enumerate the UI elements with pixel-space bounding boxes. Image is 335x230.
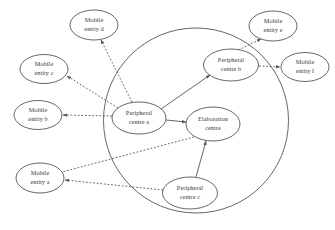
node-label-line1: Peripheral: [177, 184, 203, 191]
node-layer: Peripheral centre a Peripheral centre b …: [14, 10, 329, 209]
node-label-line1: Mobile: [29, 106, 48, 113]
diagram-canvas: Peripheral centre a Peripheral centre b …: [0, 0, 335, 230]
node-mobile-entity-f[interactable]: Mobile entity f: [281, 53, 329, 82]
edge-centre-c-entity-a: [65, 180, 163, 190]
node-mobile-entity-a[interactable]: Mobile entity a: [16, 163, 64, 193]
node-label-line1: Mobile: [31, 169, 50, 176]
node-label-line1: Elaboration: [198, 115, 229, 122]
network-architecture-diagram: Peripheral centre a Peripheral centre b …: [0, 0, 335, 230]
edge-centre-c-elaboration: [196, 141, 206, 177]
edge-elaboration-entity-a: [62, 137, 194, 172]
edge-centre-a-entity-c: [67, 76, 118, 108]
edge-centre-a-elaboration: [166, 120, 186, 122]
node-peripheral-centre-a[interactable]: Peripheral centre a: [112, 102, 166, 134]
node-mobile-entity-c[interactable]: Mobile entity c: [20, 55, 68, 84]
node-mobile-entity-b[interactable]: Mobile entity b: [14, 101, 62, 130]
node-label-line2: centre c: [180, 193, 200, 200]
node-mobile-entity-d[interactable]: Mobile entity d: [70, 10, 118, 40]
node-label-line1: Mobile: [296, 58, 315, 65]
node-label-line1: Peripheral: [218, 56, 244, 63]
node-label-line2: centre b: [221, 65, 241, 72]
node-label-line1: Mobile: [85, 16, 104, 23]
node-label-line1: Peripheral: [126, 109, 152, 116]
edge-centre-a-centre-b: [161, 75, 210, 109]
node-peripheral-centre-c[interactable]: Peripheral centre c: [163, 177, 218, 209]
node-mobile-entity-e[interactable]: Mobile entity e: [249, 11, 297, 41]
edge-centre-b-entity-f: [259, 66, 280, 67]
node-label-line2: entity d: [84, 25, 104, 32]
edge-centre-a-entity-b: [63, 115, 112, 116]
node-label-line2: entity f: [296, 67, 315, 74]
node-label-line2: centre a: [129, 118, 149, 125]
node-label-line1: Mobile: [35, 60, 54, 67]
node-label-line2: entity e: [264, 26, 283, 33]
node-label-line2: entity a: [31, 178, 50, 185]
node-label-line2: entity c: [35, 69, 54, 76]
node-label-line2: centre: [205, 124, 221, 131]
edge-centre-a-entity-d: [101, 40, 132, 102]
node-label-line1: Mobile: [264, 17, 283, 24]
node-elaboration-centre[interactable]: Elaboration centre: [186, 107, 240, 141]
node-peripheral-centre-b[interactable]: Peripheral centre b: [204, 49, 259, 81]
node-label-line2: entity b: [28, 115, 47, 122]
